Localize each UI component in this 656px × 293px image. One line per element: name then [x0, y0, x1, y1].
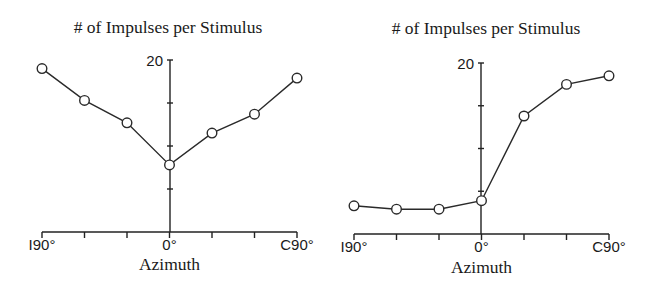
data-point-marker: [207, 128, 217, 138]
x-tick-label-contra: C90°: [592, 238, 626, 255]
x-tick-label-contra: C90°: [280, 236, 314, 253]
data-point-marker: [80, 96, 90, 106]
y-axis: [478, 63, 484, 234]
chart-title: # of Impulses per Stimulus: [74, 17, 263, 37]
data-point-marker: [37, 64, 47, 74]
x-axis-label: Azimuth: [451, 257, 512, 277]
figure: # of Impulses per Stimulus 20 I90° 0° C9…: [0, 0, 656, 293]
data-point-marker: [250, 109, 260, 119]
data-point-marker: [122, 118, 132, 128]
x-tick-label-ipsi: I90°: [29, 236, 56, 253]
x-tick-label-ipsi: I90°: [341, 238, 368, 255]
data-point-marker: [349, 201, 359, 211]
data-point-marker: [434, 204, 444, 214]
data-point-marker: [477, 196, 487, 206]
x-tick-label-zero: 0°: [162, 236, 176, 253]
chart-title: # of Impulses per Stimulus: [392, 18, 581, 38]
x-tick-label-zero: 0°: [474, 238, 488, 255]
chart-right: # of Impulses per Stimulus 20 I90° 0° C9…: [341, 18, 626, 277]
data-point-marker: [165, 160, 175, 170]
data-point-marker: [392, 204, 402, 214]
data-point-marker: [562, 80, 572, 90]
data-point-marker: [604, 71, 614, 81]
data-point-marker: [292, 73, 302, 83]
y-axis: [167, 60, 173, 232]
data-point-marker: [519, 111, 529, 121]
y-max-label: 20: [146, 52, 163, 69]
y-max-label: 20: [457, 55, 474, 72]
x-axis-label: Azimuth: [139, 254, 200, 274]
chart-left: # of Impulses per Stimulus 20 I90° 0° C9…: [29, 17, 314, 274]
